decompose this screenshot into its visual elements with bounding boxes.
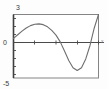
y-axis-zero-label: 0 [3, 39, 7, 46]
x-axis-name-label: x [101, 39, 103, 44]
plot-area [0, 0, 108, 89]
y-axis-min-label: -5 [3, 80, 9, 87]
plot-frame [14, 15, 99, 79]
y-axis-max-label: 3 [16, 4, 20, 11]
chart-figure: 3 0 -5 x [0, 0, 108, 89]
